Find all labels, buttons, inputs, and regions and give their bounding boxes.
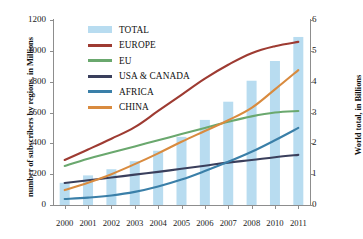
y-tick-label-left: 1000 bbox=[12, 45, 46, 55]
legend-swatch-icon bbox=[88, 106, 112, 109]
legend-label: AFRICA bbox=[119, 87, 154, 97]
y-tick-mark-left bbox=[50, 82, 54, 83]
y-tick-mark-left bbox=[50, 174, 54, 175]
y-tick-label-right: 5 bbox=[312, 45, 338, 55]
bar-total bbox=[247, 81, 257, 205]
y-tick-mark-right bbox=[310, 51, 314, 52]
x-tick-mark bbox=[298, 205, 299, 209]
x-tick-mark bbox=[275, 205, 276, 209]
y-tick-mark-right bbox=[310, 205, 314, 206]
legend-label: CHINA bbox=[119, 102, 149, 112]
y-tick-label-right: 0 bbox=[312, 199, 338, 209]
y-tick-mark-right bbox=[310, 82, 314, 83]
x-tick-mark bbox=[135, 205, 136, 209]
y-axis-ticks-left: 020040060080010001200 bbox=[12, 0, 46, 239]
x-tick-mark bbox=[228, 205, 229, 209]
legend-item-usa-canada[interactable]: USA & CANADA bbox=[88, 69, 228, 85]
x-tick-mark bbox=[205, 205, 206, 209]
x-tick-mark bbox=[182, 205, 183, 209]
y-tick-mark-right bbox=[310, 174, 314, 175]
legend-label: EU bbox=[119, 56, 132, 66]
y-tick-label-right: 6 bbox=[312, 14, 338, 24]
y-tick-mark-right bbox=[310, 113, 314, 114]
y-tick-label-left: 200 bbox=[12, 168, 46, 178]
x-tick-mark bbox=[88, 205, 89, 209]
legend-item-total[interactable]: TOTAL bbox=[88, 22, 228, 38]
chart-legend: TOTALEUROPEEUUSA & CANADAAFRICACHINA bbox=[88, 22, 228, 115]
bar-total bbox=[177, 137, 187, 205]
x-tick-label: 2011 bbox=[283, 218, 313, 228]
y-tick-label-left: 1200 bbox=[12, 14, 46, 24]
y-tick-label-left: 600 bbox=[12, 107, 46, 117]
y-tick-label-left: 0 bbox=[12, 199, 46, 209]
y-axis-ticks-right: 0123456 bbox=[312, 0, 338, 239]
legend-swatch-icon bbox=[88, 26, 112, 33]
bar-total bbox=[153, 151, 163, 205]
legend-item-africa[interactable]: AFRICA bbox=[88, 84, 228, 100]
bar-total bbox=[130, 161, 140, 205]
y-tick-mark-left bbox=[50, 51, 54, 52]
legend-item-eu[interactable]: EU bbox=[88, 53, 228, 69]
legend-label: USA & CANADA bbox=[119, 71, 190, 81]
y-tick-mark-right bbox=[310, 143, 314, 144]
x-axis-ticks: 2000200120022003200420052006200720082010… bbox=[53, 211, 310, 231]
legend-swatch-icon bbox=[88, 59, 112, 62]
x-tick-mark bbox=[252, 205, 253, 209]
bar-total bbox=[223, 102, 233, 205]
x-tick-mark bbox=[158, 205, 159, 209]
y-tick-mark-left bbox=[50, 143, 54, 144]
y-tick-label-right: 3 bbox=[312, 107, 338, 117]
y-tick-mark-right bbox=[310, 20, 314, 21]
legend-label: TOTAL bbox=[119, 25, 149, 35]
y-tick-label-right: 2 bbox=[312, 137, 338, 147]
legend-swatch-icon bbox=[88, 75, 112, 78]
y-tick-mark-left bbox=[50, 205, 54, 206]
y-tick-mark-left bbox=[50, 113, 54, 114]
legend-item-china[interactable]: CHINA bbox=[88, 100, 228, 116]
y-axis-label-right: World total, in Billions bbox=[353, 25, 363, 205]
y-tick-label-left: 400 bbox=[12, 137, 46, 147]
y-tick-label-right: 4 bbox=[312, 76, 338, 86]
legend-item-europe[interactable]: EUROPE bbox=[88, 38, 228, 54]
legend-swatch-icon bbox=[88, 90, 112, 93]
legend-label: EUROPE bbox=[119, 40, 156, 50]
legend-swatch-icon bbox=[88, 44, 112, 47]
y-tick-label-right: 1 bbox=[312, 168, 338, 178]
x-tick-mark bbox=[65, 205, 66, 209]
bar-total bbox=[293, 37, 303, 205]
bar-total bbox=[60, 183, 70, 205]
y-tick-label-left: 800 bbox=[12, 76, 46, 86]
bar-total bbox=[270, 61, 280, 205]
x-tick-mark bbox=[111, 205, 112, 209]
y-tick-mark-left bbox=[50, 20, 54, 21]
